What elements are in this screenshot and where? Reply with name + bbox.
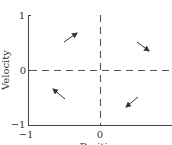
ytick-1: 1 bbox=[19, 10, 25, 21]
y-axis-label: Velocity bbox=[0, 50, 11, 91]
arrow-lower-left bbox=[53, 89, 65, 99]
phase-plot: 1 0 −1 −1 0 Velocity Position bbox=[0, 0, 172, 145]
xtick-neg1: −1 bbox=[19, 129, 34, 140]
arrow-upper-left bbox=[64, 33, 77, 42]
arrow-lower-right bbox=[126, 97, 138, 107]
ytick-0: 0 bbox=[20, 65, 26, 76]
x-axis-label: Position bbox=[80, 141, 121, 145]
xtick-0: 0 bbox=[97, 129, 103, 140]
arrow-upper-right bbox=[137, 42, 149, 51]
